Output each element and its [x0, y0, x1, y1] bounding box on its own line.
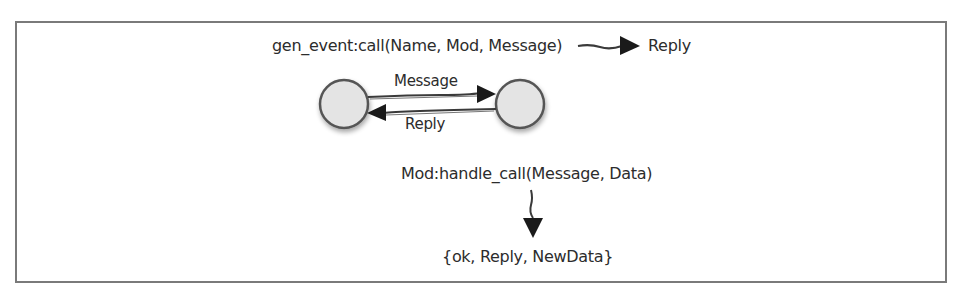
caller-process-node: [320, 80, 368, 128]
call-result-arrow: [578, 36, 640, 55]
handler-result-arrow: [523, 190, 543, 238]
handler-result-label: {ok, Reply, NewData}: [442, 247, 613, 266]
handler-call-label: Mod:handle_call(Message, Data): [401, 164, 652, 183]
event-manager-process-node: [496, 80, 544, 128]
call-expression-label: gen_event:call(Name, Mod, Message): [272, 36, 562, 55]
call-result-label: Reply: [648, 36, 691, 55]
message-arrow-label: Message: [394, 72, 458, 90]
reply-arrow-label: Reply: [405, 115, 445, 133]
